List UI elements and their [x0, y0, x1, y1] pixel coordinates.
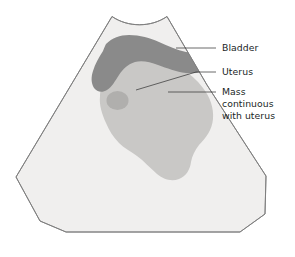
mass-label-line-1: Mass — [222, 86, 246, 97]
mass-region — [107, 91, 129, 110]
bladder-label: Bladder — [222, 42, 258, 53]
mass-label-line-3: with uterus — [222, 110, 275, 121]
ultrasound-diagram-svg: Bladder Uterus Mass continuous with uter… — [0, 0, 295, 257]
ultrasound-figure: Bladder Uterus Mass continuous with uter… — [0, 0, 295, 257]
uterus-label: Uterus — [222, 66, 253, 77]
mass-label-line-2: continuous — [222, 98, 274, 109]
